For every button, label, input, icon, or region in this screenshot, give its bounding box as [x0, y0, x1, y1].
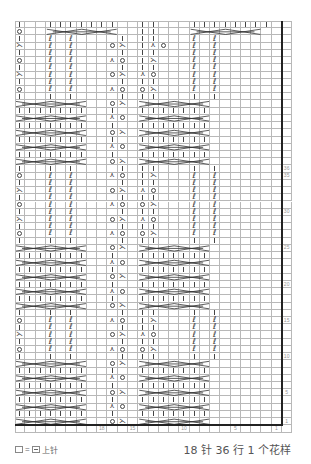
row-number-cell [282, 180, 292, 187]
chart-cell: ⋏ [107, 404, 117, 411]
chart-cell [46, 144, 56, 151]
chart-cell [46, 137, 56, 144]
knit-icon [50, 411, 51, 416]
column-number-cell: 5 [231, 425, 241, 432]
chart-cell [15, 223, 25, 230]
chart-cell [46, 375, 56, 382]
chart-cell [179, 57, 189, 64]
knit-icon [19, 195, 20, 200]
chart-cell: ⋌ [15, 187, 25, 194]
chart-cell [251, 93, 261, 100]
chart-cell [56, 382, 66, 389]
chart-cell [66, 158, 76, 165]
chart-cell: ⋏ [138, 331, 148, 338]
chart-cell [25, 100, 35, 107]
chart-cell [46, 129, 56, 136]
chart-cell: ⋏ [107, 144, 117, 151]
chart-cell [97, 389, 107, 396]
chart-cell [15, 245, 25, 252]
knit-icon [153, 65, 154, 70]
chart-cell [179, 165, 189, 172]
chart-cell [169, 72, 179, 79]
chart-cell [56, 50, 66, 57]
grid-cell [282, 425, 292, 432]
chart-cell [56, 368, 66, 375]
knit-icon [70, 94, 71, 99]
row-number-cell [282, 404, 292, 411]
row-number: 10 [284, 354, 290, 359]
chart-cell [56, 295, 66, 302]
chart-cell [128, 396, 138, 403]
chart-cell [251, 194, 261, 201]
knit-icon [153, 29, 154, 34]
chart-cell [251, 100, 261, 107]
chart-cell [190, 396, 200, 403]
chart-cell [128, 115, 138, 122]
chart-cell [36, 64, 46, 71]
row-number-cell [282, 79, 292, 86]
chart-cell [210, 129, 220, 136]
chart-cell: ℓ [46, 230, 56, 237]
chart-cell [149, 115, 159, 122]
knit-icon [81, 267, 82, 272]
knit-icon [19, 166, 20, 171]
chart-cell [169, 317, 179, 324]
knit-icon [204, 296, 205, 301]
chart-cell [36, 43, 46, 50]
chart-cell [251, 158, 261, 165]
chart-cell [128, 144, 138, 151]
chart-cell [25, 144, 35, 151]
chart-cell [25, 259, 35, 266]
chart-cell [56, 129, 66, 136]
chart-cell [169, 165, 179, 172]
chart-cell [36, 144, 46, 151]
chart-cell [25, 194, 35, 201]
chart-cell [220, 346, 230, 353]
chart-cell [25, 209, 35, 216]
chart-cell [220, 288, 230, 295]
knit-icon [19, 94, 20, 99]
knit-icon [81, 108, 82, 113]
row-number: 36 [284, 166, 290, 171]
row-number-cell [282, 324, 292, 331]
chart-cell [77, 173, 87, 180]
chart-cell [220, 223, 230, 230]
chart-cell [261, 216, 271, 223]
chart-cell [241, 21, 251, 28]
knit-icon [142, 94, 143, 99]
knit-icon [40, 152, 41, 157]
knit-icon [204, 137, 205, 142]
chart-cell [190, 389, 200, 396]
chart-cell [231, 209, 241, 216]
chart-cell [138, 79, 148, 86]
chart-cell: ℓ [66, 346, 76, 353]
chart-cell [138, 389, 148, 396]
chart-cell [251, 324, 261, 331]
chart-cell [261, 360, 271, 367]
chart-cell [261, 281, 271, 288]
chart-cell [56, 404, 66, 411]
chart-cell [97, 295, 107, 302]
knit-icon [255, 22, 256, 27]
chart-cell: ⋏ [138, 187, 148, 194]
legend: = 上针 [15, 444, 58, 455]
chart-cell [138, 223, 148, 230]
chart-cell [241, 317, 251, 324]
knit-icon [142, 267, 143, 272]
chart-cell [25, 64, 35, 71]
chart-cell [241, 151, 251, 158]
knit-icon [163, 108, 164, 113]
chart-cell [241, 310, 251, 317]
chart-cell [36, 180, 46, 187]
chart-cell [220, 317, 230, 324]
chart-cell [56, 79, 66, 86]
yarn-over-icon [17, 318, 22, 323]
chart-cell [220, 238, 230, 245]
chart-cell [36, 115, 46, 122]
chart-cell [56, 21, 66, 28]
knit-icon [142, 318, 143, 323]
chart-cell [15, 194, 25, 201]
row-number-cell [282, 396, 292, 403]
chart-cell [77, 230, 87, 237]
chart-cell [56, 35, 66, 42]
